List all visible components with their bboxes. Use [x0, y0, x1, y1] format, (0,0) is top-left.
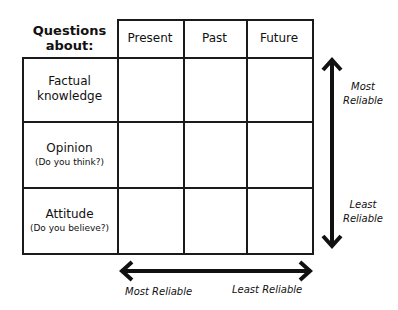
- vertical-top-label-line1: Most: [338, 80, 388, 94]
- horizontal-left-label: Most Reliable: [125, 285, 205, 299]
- horizontal-double-arrow-icon: [122, 262, 310, 280]
- arrows-layer: [0, 0, 398, 310]
- vertical-top-label-line2: Reliable: [338, 94, 388, 108]
- vertical-bottom-label-line2: Reliable: [338, 212, 388, 226]
- horizontal-right-label: Least Reliable: [232, 283, 312, 297]
- vertical-bottom-label: Least Reliable: [338, 198, 388, 226]
- vertical-top-label: Most Reliable: [338, 80, 388, 108]
- vertical-bottom-label-line1: Least: [338, 198, 388, 212]
